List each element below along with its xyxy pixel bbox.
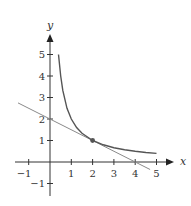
y-tick-label: 4 bbox=[39, 71, 45, 82]
plot: −1 1 2 3 4 5 −1 1 2 3 4 5 x y bbox=[0, 0, 191, 206]
y-tick-label: −1 bbox=[30, 178, 45, 189]
x-axis-label: x bbox=[180, 155, 187, 168]
curve bbox=[59, 55, 157, 154]
y-axis-label: y bbox=[46, 19, 54, 32]
x-tick-label: 1 bbox=[68, 168, 74, 179]
x-tick-label: 3 bbox=[111, 168, 117, 179]
y-axis-arrow-icon bbox=[47, 34, 54, 42]
y-tick-label: 5 bbox=[39, 49, 45, 60]
tangency-point bbox=[90, 138, 95, 143]
x-tick-label: −1 bbox=[17, 168, 32, 179]
x-tick-label: 4 bbox=[132, 168, 138, 179]
y-tick-label: 3 bbox=[39, 92, 45, 103]
x-tick-label: 2 bbox=[89, 168, 95, 179]
y-tick-label: 1 bbox=[39, 135, 45, 146]
x-tick-label: 5 bbox=[153, 168, 159, 179]
figure: −1 1 2 3 4 5 −1 1 2 3 4 5 x y bbox=[0, 0, 191, 206]
x-axis-arrow-icon bbox=[166, 159, 174, 166]
